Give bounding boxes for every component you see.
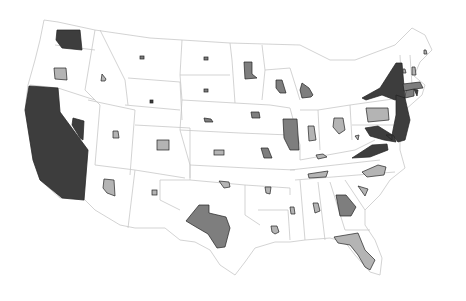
state-or (54, 68, 67, 80)
state-nh (412, 67, 416, 75)
state-ut (113, 131, 119, 138)
state-ar (265, 187, 271, 194)
state-ms (290, 207, 295, 214)
state-nd (204, 57, 208, 60)
state-ia (251, 112, 260, 118)
state-mt (140, 56, 144, 59)
state-pa (366, 108, 389, 122)
state-wy (150, 100, 153, 103)
us-cartogram-map (0, 0, 466, 301)
state-co (157, 140, 169, 150)
state-nm (152, 190, 157, 195)
state-ks (214, 150, 224, 155)
state-sd (204, 89, 208, 92)
